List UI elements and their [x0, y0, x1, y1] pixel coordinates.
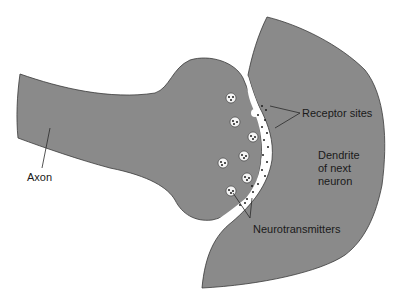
dendrite-label-line2: of next	[318, 162, 351, 174]
axon-terminal-shape	[17, 58, 262, 220]
vesicle	[230, 117, 240, 127]
receptor-sites-label: Receptor sites	[302, 107, 373, 119]
vesicle	[218, 158, 228, 168]
vesicle	[242, 173, 252, 183]
vesicle	[239, 151, 249, 161]
vesicle	[248, 132, 258, 142]
neurotransmitters-label: Neurotransmitters	[253, 223, 341, 235]
axon-label: Axon	[27, 171, 52, 183]
synapse-diagram: Axon Receptor sites Dendrite of next neu…	[0, 0, 402, 297]
dendrite-label-line1: Dendrite	[318, 149, 360, 161]
dendrite-label-line3: neuron	[318, 175, 352, 187]
vesicle	[226, 93, 236, 103]
